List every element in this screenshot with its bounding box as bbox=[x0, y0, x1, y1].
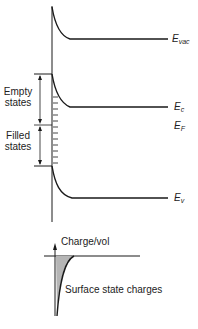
filled-states-line2: states bbox=[2, 141, 34, 152]
fermi-level-label: EF bbox=[174, 120, 185, 134]
surface-state-ticks bbox=[53, 97, 58, 163]
filled-states-line1: Filled bbox=[2, 130, 34, 141]
conduction-label-sub: c bbox=[181, 106, 185, 113]
valence-label-main: E bbox=[174, 192, 181, 203]
empty-states-line2: states bbox=[2, 97, 34, 108]
vacuum-label-sub: vac bbox=[179, 38, 190, 45]
conduction-band-curve bbox=[52, 74, 168, 107]
fermi-label-main: E bbox=[174, 120, 181, 131]
filled-states-arrow-up-head bbox=[38, 126, 42, 131]
conduction-label-main: E bbox=[174, 101, 181, 112]
filled-states-label: Filled states bbox=[2, 130, 34, 152]
filled-states-arrow-down-head bbox=[38, 160, 42, 165]
charge-axis-label: Charge/vol bbox=[61, 236, 109, 247]
valence-band-curve bbox=[52, 166, 168, 198]
empty-states-arrow-down-head bbox=[38, 119, 42, 124]
empty-states-arrow-up-head bbox=[38, 75, 42, 80]
conduction-band-label: Ec bbox=[174, 101, 184, 115]
valence-band-label: Ev bbox=[174, 192, 184, 206]
valence-label-sub: v bbox=[181, 197, 185, 204]
empty-states-line1: Empty bbox=[2, 86, 34, 97]
charge-axis-arrowhead bbox=[53, 243, 57, 250]
band-diagram bbox=[0, 0, 198, 329]
surface-charge-annotation: Surface state charges bbox=[65, 284, 162, 295]
empty-states-label: Empty states bbox=[2, 86, 34, 108]
vacuum-label-main: E bbox=[172, 33, 179, 44]
vacuum-level-curve bbox=[52, 7, 168, 39]
vacuum-level-label: Evac bbox=[172, 33, 190, 47]
fermi-label-sub: F bbox=[181, 125, 185, 132]
